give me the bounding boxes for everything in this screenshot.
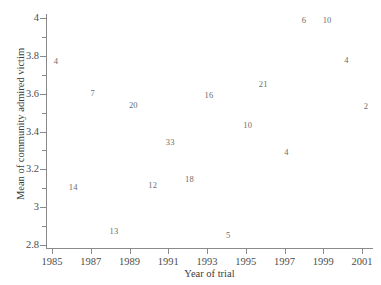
data-point-label: 10 xyxy=(243,121,252,130)
y-axis-line xyxy=(46,14,47,248)
y-tick-3.4 xyxy=(40,132,46,133)
data-point-label: 16 xyxy=(204,91,213,100)
x-tick-2001 xyxy=(362,248,363,254)
y-tick-label-4: 4 xyxy=(34,13,39,24)
x-tick-1987 xyxy=(91,248,92,254)
y-minor-tick xyxy=(42,75,46,76)
data-point-label: 5 xyxy=(226,231,230,240)
data-point-label: 4 xyxy=(284,148,288,157)
scatter-plot-figure: 2.833.23.43.63.84 1985198719891991199319… xyxy=(0,0,381,285)
x-tick-label-1987: 1987 xyxy=(80,256,101,267)
data-point-label: 4 xyxy=(344,56,348,65)
y-minor-tick xyxy=(42,150,46,151)
data-point-label: 10 xyxy=(323,16,332,25)
data-point-label: 2 xyxy=(364,102,368,111)
x-tick-label-1999: 1999 xyxy=(313,256,334,267)
y-minor-tick xyxy=(42,226,46,227)
data-point-label: 14 xyxy=(69,182,78,191)
data-point-label: 20 xyxy=(129,101,138,110)
x-tick-1995 xyxy=(246,248,247,254)
x-axis-title: Year of trial xyxy=(46,268,373,280)
x-tick-label-1993: 1993 xyxy=(197,256,218,267)
x-tick-1997 xyxy=(285,248,286,254)
data-point-label: 4 xyxy=(54,57,58,66)
x-tick-1985 xyxy=(52,248,53,254)
data-point-label: 18 xyxy=(185,174,194,183)
data-point-label: 21 xyxy=(259,80,268,89)
x-tick-1989 xyxy=(130,248,131,254)
x-tick-label-1991: 1991 xyxy=(158,256,179,267)
x-tick-label-1985: 1985 xyxy=(42,256,63,267)
x-tick-1999 xyxy=(323,248,324,254)
y-tick-3.2 xyxy=(40,169,46,170)
y-minor-tick xyxy=(42,113,46,114)
y-tick-label-3: 3 xyxy=(34,202,39,213)
y-minor-tick xyxy=(42,37,46,38)
y-tick-2.8 xyxy=(40,245,46,246)
data-point-label: 33 xyxy=(166,138,175,147)
y-axis-title: Mean of community admired victim xyxy=(14,0,28,248)
data-point-label: 12 xyxy=(148,180,157,189)
y-tick-3 xyxy=(40,207,46,208)
x-tick-1991 xyxy=(168,248,169,254)
y-tick-3.6 xyxy=(40,94,46,95)
data-point-label: 7 xyxy=(90,89,94,98)
x-tick-label-1995: 1995 xyxy=(235,256,256,267)
x-tick-1993 xyxy=(207,248,208,254)
x-tick-label-1997: 1997 xyxy=(274,256,295,267)
y-tick-3.8 xyxy=(40,56,46,57)
data-point-label: 13 xyxy=(110,227,119,236)
x-tick-label-2001: 2001 xyxy=(352,256,373,267)
x-tick-label-1989: 1989 xyxy=(119,256,140,267)
y-tick-4 xyxy=(40,18,46,19)
data-point-label: 6 xyxy=(302,16,306,25)
y-minor-tick xyxy=(42,188,46,189)
